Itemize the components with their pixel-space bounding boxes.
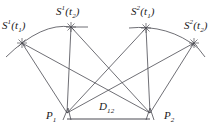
node-label-s2t1: S2(t1)	[131, 6, 155, 17]
baseline-label-d12: D12	[99, 101, 114, 112]
node-label-s1t2: S1(t2)	[56, 6, 80, 17]
edge-s1t2-to-p1	[67, 27, 71, 113]
node-label-p2: P2	[164, 110, 174, 121]
edge-s2t2-to-p2	[150, 43, 194, 113]
edge-s2t1-to-p2	[146, 28, 150, 113]
node-label-s1t1: S1(t1)	[2, 20, 26, 31]
station-tick-p1-left	[63, 108, 68, 120]
node-label-p1: P1	[46, 110, 56, 121]
satellite-baseline-diagram: S1(t1) S1(t2) S2(t1) S2(t2) P1 P2 D12	[0, 0, 223, 134]
node-label-s2t2: S2(t2)	[184, 20, 208, 31]
edge-s1t1-to-p1	[22, 43, 67, 113]
